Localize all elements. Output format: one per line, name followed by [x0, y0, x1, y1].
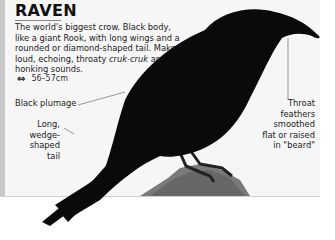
- plumage-label: Black plumage: [15, 98, 76, 109]
- tail-label: Long, wedge-shaped tail: [18, 119, 60, 161]
- throat-label: Throat feathers smoothed flat or raised …: [262, 98, 315, 151]
